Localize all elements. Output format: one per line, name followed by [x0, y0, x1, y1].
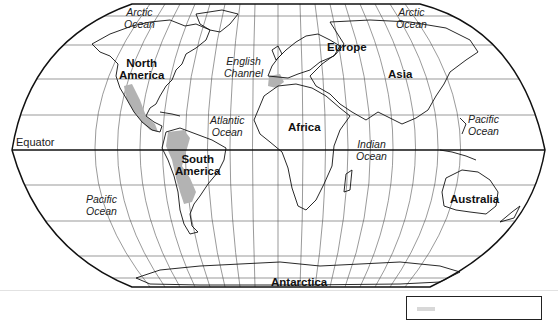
- label-line: Ocean: [210, 126, 244, 138]
- pacific-ocean-west-label: Pacific Ocean: [86, 193, 117, 217]
- legend-box: [406, 296, 542, 320]
- label-line: Indian: [356, 138, 387, 150]
- australia-label: Australia: [450, 193, 499, 205]
- label-line: Ocean: [468, 125, 499, 137]
- label-line: Pacific: [468, 113, 499, 125]
- label-line: Ocean: [396, 18, 427, 30]
- africa-label: Africa: [288, 121, 321, 133]
- label-line: Ocean: [86, 205, 117, 217]
- divider: [0, 290, 558, 291]
- label-line: North: [119, 57, 164, 69]
- south-america-label: South America: [175, 153, 220, 177]
- english-channel-label: English Channel: [224, 55, 263, 79]
- label-line: America: [175, 165, 220, 177]
- legend-swatch: [417, 307, 435, 311]
- equator-label: Equator: [16, 136, 55, 148]
- label-line: English: [224, 55, 263, 67]
- label-line: America: [119, 69, 164, 81]
- highlighted-regions: [124, 74, 284, 204]
- label-line: Atlantic: [210, 114, 244, 126]
- atlantic-ocean-label: Atlantic Ocean: [210, 114, 244, 138]
- label-line: Channel: [224, 67, 263, 79]
- asia-label: Asia: [388, 68, 412, 80]
- europe-label: Europe: [327, 41, 367, 53]
- pacific-ocean-east-label: Pacific Ocean: [468, 113, 499, 137]
- label-line: Ocean: [356, 150, 387, 162]
- label-line: Arctic: [396, 6, 427, 18]
- indian-ocean-label: Indian Ocean: [356, 138, 387, 162]
- label-line: Arctic: [124, 6, 155, 18]
- arctic-ocean-west-label: Arctic Ocean: [124, 6, 155, 30]
- arctic-ocean-east-label: Arctic Ocean: [396, 6, 427, 30]
- coastlines: [92, 10, 520, 285]
- label-line: South: [175, 153, 220, 165]
- label-line: Ocean: [124, 18, 155, 30]
- north-america-label: North America: [119, 57, 164, 81]
- antarctica-label: Antarctica: [271, 276, 327, 288]
- label-line: Pacific: [86, 193, 117, 205]
